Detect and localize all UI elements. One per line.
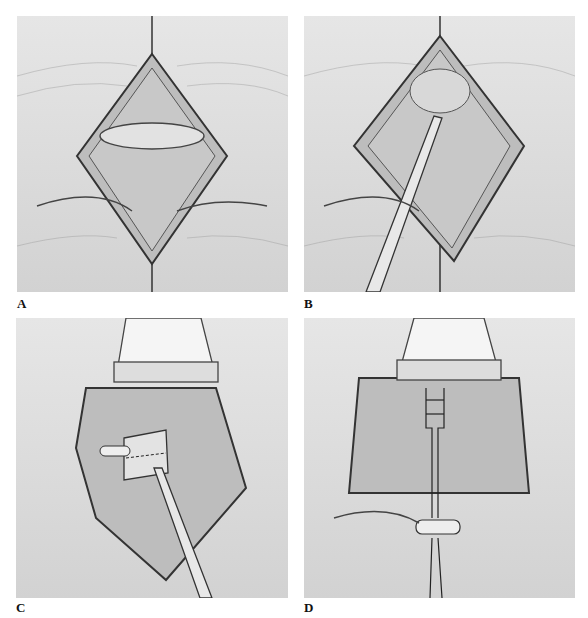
panel-c bbox=[16, 318, 288, 598]
panel-d-illustration bbox=[304, 318, 575, 598]
panel-d bbox=[304, 318, 575, 598]
panel-a-illustration bbox=[17, 16, 288, 292]
panel-c-illustration bbox=[16, 318, 288, 598]
panel-b bbox=[304, 16, 575, 292]
panel-label-b: B bbox=[304, 296, 313, 312]
panel-label-d: D bbox=[304, 600, 313, 616]
panel-b-illustration bbox=[304, 16, 575, 292]
panel-a bbox=[17, 16, 288, 292]
panel-label-c: C bbox=[16, 600, 25, 616]
panel-label-a: A bbox=[17, 296, 26, 312]
